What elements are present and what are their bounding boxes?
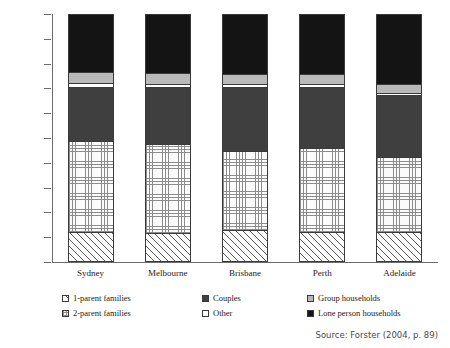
swatch-couples-icon <box>202 295 209 302</box>
legend-row: 2-parent familiesOtherLone person househ… <box>62 306 422 321</box>
legend-item[interactable]: 2-parent families <box>62 309 202 318</box>
bar-segment <box>300 15 344 75</box>
bar-segment <box>377 158 421 233</box>
y-axis-tick <box>44 262 51 263</box>
bar-segment <box>69 88 113 142</box>
bar-segment <box>146 74 190 85</box>
source-note: Source: Forster (2004, p. 89) <box>315 330 438 340</box>
bar-segment <box>223 75 267 85</box>
bar-segment <box>377 85 421 94</box>
y-axis-tick <box>44 237 51 238</box>
y-axis-tick <box>44 88 51 89</box>
plot-area <box>52 14 436 262</box>
bar-segment <box>69 73 113 84</box>
bar-segment <box>146 88 190 146</box>
legend-row: 1-parent familiesCouplesGroup households <box>62 291 422 306</box>
legend-item-label: 1-parent families <box>73 294 131 303</box>
legend-item-label: Couples <box>213 294 241 303</box>
stacked-bar-chart: 0%10%20%30%40%50%60%70%80%90%100% Sydney… <box>0 0 450 348</box>
y-axis-tick <box>44 212 51 213</box>
bar-stack <box>68 14 114 262</box>
bar-segment <box>300 149 344 233</box>
legend-item[interactable]: Group households <box>307 294 380 303</box>
bar-stack <box>376 14 422 262</box>
bar-stack <box>222 14 268 262</box>
y-axis-tick <box>44 138 51 139</box>
legend-item[interactable]: Other <box>202 309 307 318</box>
y-axis-tick <box>44 14 51 15</box>
bar-segment <box>300 75 344 85</box>
legend-item-label: Lone person households <box>318 309 401 318</box>
bar-segment <box>300 233 344 261</box>
bar-segment <box>377 15 421 85</box>
bar-segment <box>223 88 267 152</box>
bar-segment <box>377 96 421 158</box>
y-axis-tick <box>44 113 51 114</box>
bar-segment <box>69 233 113 261</box>
swatch-2parent-icon <box>62 310 69 317</box>
bar-stack <box>145 14 191 262</box>
bar-segment <box>146 234 190 261</box>
y-axis-tick <box>44 39 51 40</box>
legend-item[interactable]: Couples <box>202 294 307 303</box>
bar-segment <box>223 152 267 232</box>
bar-segment <box>377 233 421 261</box>
x-axis-label: Adelaide <box>344 268 450 278</box>
swatch-lone-icon <box>307 310 314 317</box>
bar-segment <box>146 15 190 74</box>
bar-stack <box>299 14 345 262</box>
legend-item[interactable]: 1-parent families <box>62 294 202 303</box>
bar-segment <box>223 15 267 75</box>
legend-item-label: Other <box>213 309 232 318</box>
bar-segment <box>69 15 113 73</box>
chart-legend: 1-parent familiesCouplesGroup households… <box>62 291 422 321</box>
y-axis-tick <box>44 64 51 65</box>
swatch-other-icon <box>202 310 209 317</box>
y-axis-tick <box>44 163 51 164</box>
swatch-group-icon <box>307 295 314 302</box>
legend-item-label: 2-parent families <box>73 309 131 318</box>
legend-item-label: Group households <box>318 294 380 303</box>
x-axis-line <box>52 262 438 263</box>
swatch-1parent-icon <box>62 295 69 302</box>
bar-segment <box>146 145 190 234</box>
bar-segment <box>223 231 267 261</box>
legend-item[interactable]: Lone person households <box>307 309 401 318</box>
bar-segment <box>300 88 344 150</box>
bar-segment <box>69 142 113 233</box>
y-axis-tick <box>44 188 51 189</box>
